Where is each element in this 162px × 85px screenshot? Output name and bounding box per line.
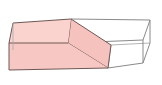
cuboid-diagram-svg <box>0 0 162 85</box>
geometry-figure-container <box>0 0 162 85</box>
